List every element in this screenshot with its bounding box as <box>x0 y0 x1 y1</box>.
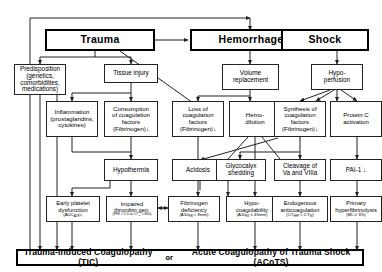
node-hypoperfusion-line2: perfusion <box>324 77 350 84</box>
node-synthesis-line4: (Fibrinogen)↓ <box>282 126 318 133</box>
node-early-platelet-detail: (AUCADP)↓ <box>63 213 83 218</box>
node-consumption[interactable]: Consumption of coagulation factors (Fibr… <box>104 101 158 137</box>
summary-right-label: Acute Coagulopathy of Trauma Shock (ACoT… <box>180 248 362 267</box>
node-hemodilution-line2: dilution <box>245 119 264 126</box>
node-hypocoagulability[interactable]: Hypo- coagulability (A10EX ≤ 45mm) <box>226 196 278 222</box>
node-cleavage-line2: Va and VIIIa <box>283 170 318 177</box>
node-synthesis[interactable]: Synthesis of coagulation factors (Fibrin… <box>274 101 326 137</box>
node-hyperfibrinolysis-detail: (ML ≥ 3%) <box>346 213 366 218</box>
node-loss-of-factors[interactable]: Loss of coagulation factors (Fibrinogen)… <box>172 101 224 137</box>
node-endogenous-anticoagulation[interactable]: Endogenous anticoagulation (CTHEP < CTIN… <box>272 196 328 222</box>
node-fibrinogen-deficiency-detail: (A10FIB < 8mm) <box>179 213 208 218</box>
node-acidosis-label: Acidosis <box>186 167 210 174</box>
node-shock-label: Shock <box>308 34 341 45</box>
node-predisposition-line4: medications) <box>22 86 58 93</box>
node-fibrinogen-deficiency[interactable]: Fibrinogen deficiency (A10FIB < 8mm) <box>168 196 220 222</box>
node-trauma[interactable]: Trauma <box>45 29 155 51</box>
node-loss-of-factors-line4: (Fibrinogen)↓ <box>180 126 216 133</box>
node-inflammation[interactable]: Inflammation (prostaglandins, cytokines) <box>46 101 98 137</box>
node-pai1-label: PAI-1 ↓ <box>346 167 366 174</box>
node-protein-c-line2: activation <box>343 119 369 126</box>
node-early-platelet-dysfunction[interactable]: Early platelet dysfunction (AUCADP)↓ <box>46 196 100 222</box>
node-consumption-line4: (Fibrinogen)↓ <box>113 126 149 133</box>
node-primary-hyperfibrinolysis[interactable]: Primary hyperfibrinolysis (ML ≥ 3%) <box>330 196 382 222</box>
node-hemorrhage-label: Hemorrhage <box>219 34 284 45</box>
node-hypothermia[interactable]: Hypothermia <box>104 159 158 181</box>
node-volume-replacement-line2: replacement <box>233 77 268 84</box>
node-endogenous-detail: (CTHEP < CTIN) <box>286 213 313 218</box>
node-volume-replacement[interactable]: Volume replacement <box>222 64 279 90</box>
node-tissue-injury-label: Tissue injury <box>113 70 149 77</box>
node-hypocoagulability-detail: (A10EX ≤ 45mm) <box>237 213 268 218</box>
node-shock[interactable]: Shock <box>281 29 369 51</box>
node-glycocalyx-line2: shedding <box>228 170 254 177</box>
summary-bar[interactable]: Trauma-Induced Coagulopathy (TIC) or Acu… <box>16 249 364 266</box>
node-tissue-injury[interactable]: Tissue injury <box>104 64 158 83</box>
node-impaired-thrombin-detail: (PHI > 1.5 or CTin > 80s) <box>112 213 151 217</box>
node-cleavage[interactable]: Cleavage of Va and VIIIa <box>274 159 326 181</box>
node-hypothermia-label: Hypothermia <box>113 167 149 174</box>
summary-connector: or <box>165 254 173 262</box>
node-predisposition[interactable]: Predisposition (genetics, comorbidities,… <box>14 64 66 95</box>
node-protein-c[interactable]: Protein C activation <box>330 101 382 137</box>
node-hypoperfusion[interactable]: Hypo- perfusion <box>311 64 363 90</box>
node-glycocalyx[interactable]: Glycocalyx shedding <box>216 159 266 181</box>
node-pai1[interactable]: PAI-1 ↓ <box>330 159 382 181</box>
node-impaired-thrombin[interactable]: Impaired thrombin gen. (PHI > 1.5 or CTi… <box>106 196 158 222</box>
node-inflammation-line3: cytokines) <box>58 122 85 129</box>
node-trauma-label: Trauma <box>80 34 119 45</box>
summary-left-label: Trauma-Induced Coagulopathy (TIC) <box>18 248 158 267</box>
